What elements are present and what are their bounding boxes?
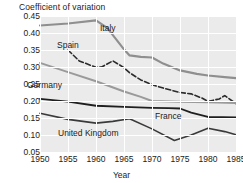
gridline-horizontal bbox=[40, 152, 236, 153]
x-axis-tick-label: 1970 bbox=[137, 154, 167, 164]
gridline-vertical bbox=[124, 16, 125, 152]
gridline-horizontal bbox=[40, 118, 236, 119]
y-axis-tick-label: 0.45 bbox=[6, 11, 40, 21]
series-label-united-kingdom: United Kingdom bbox=[58, 128, 118, 138]
gridline-horizontal bbox=[40, 16, 236, 17]
gridline-horizontal bbox=[40, 50, 236, 51]
x-axis-tick-label: 1960 bbox=[81, 154, 111, 164]
gridline-horizontal bbox=[40, 101, 236, 102]
y-axis-tick-label: 0.30 bbox=[6, 62, 40, 72]
x-axis-tick-label: 1985 bbox=[221, 154, 243, 164]
gridline-horizontal bbox=[40, 67, 236, 68]
gridline-horizontal bbox=[40, 84, 236, 85]
gridline-vertical bbox=[208, 16, 209, 152]
gridline-vertical bbox=[152, 16, 153, 152]
y-axis-tick-label: 0.10 bbox=[6, 130, 40, 140]
y-axis-tick-label: 0.15 bbox=[6, 113, 40, 123]
y-axis-tick-label: 0.20 bbox=[6, 96, 40, 106]
y-axis-tick-label: 0.35 bbox=[6, 45, 40, 55]
series-label-spain: Spain bbox=[57, 40, 79, 50]
x-axis-tick-label: 1950 bbox=[25, 154, 55, 164]
x-axis-title: Year bbox=[0, 170, 243, 180]
series-line-germany bbox=[40, 63, 236, 103]
gridline-horizontal bbox=[40, 33, 236, 34]
series-label-italy: Italy bbox=[100, 23, 116, 33]
gridline-vertical bbox=[236, 16, 237, 152]
series-label-germany: Germany bbox=[27, 80, 62, 90]
x-axis-tick-label: 1965 bbox=[109, 154, 139, 164]
gridline-vertical bbox=[180, 16, 181, 152]
coefficient-of-variation-line-chart: Coefficient of variation 0.050.100.150.2… bbox=[0, 0, 243, 183]
y-axis-tick-label: 0.40 bbox=[6, 28, 40, 38]
series-label-france: France bbox=[155, 111, 181, 121]
x-axis-tick-label: 1955 bbox=[53, 154, 83, 164]
x-axis-tick-label: 1980 bbox=[193, 154, 223, 164]
x-axis-tick-label: 1975 bbox=[165, 154, 195, 164]
